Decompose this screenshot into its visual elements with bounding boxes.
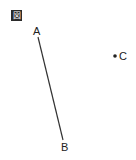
point-c-label: C	[119, 50, 127, 62]
geometry-diagram: A B C	[0, 0, 136, 160]
segment-ab	[38, 37, 63, 140]
point-c-dot	[113, 54, 117, 58]
point-b-label: B	[61, 141, 68, 153]
point-a-label: A	[33, 25, 41, 37]
